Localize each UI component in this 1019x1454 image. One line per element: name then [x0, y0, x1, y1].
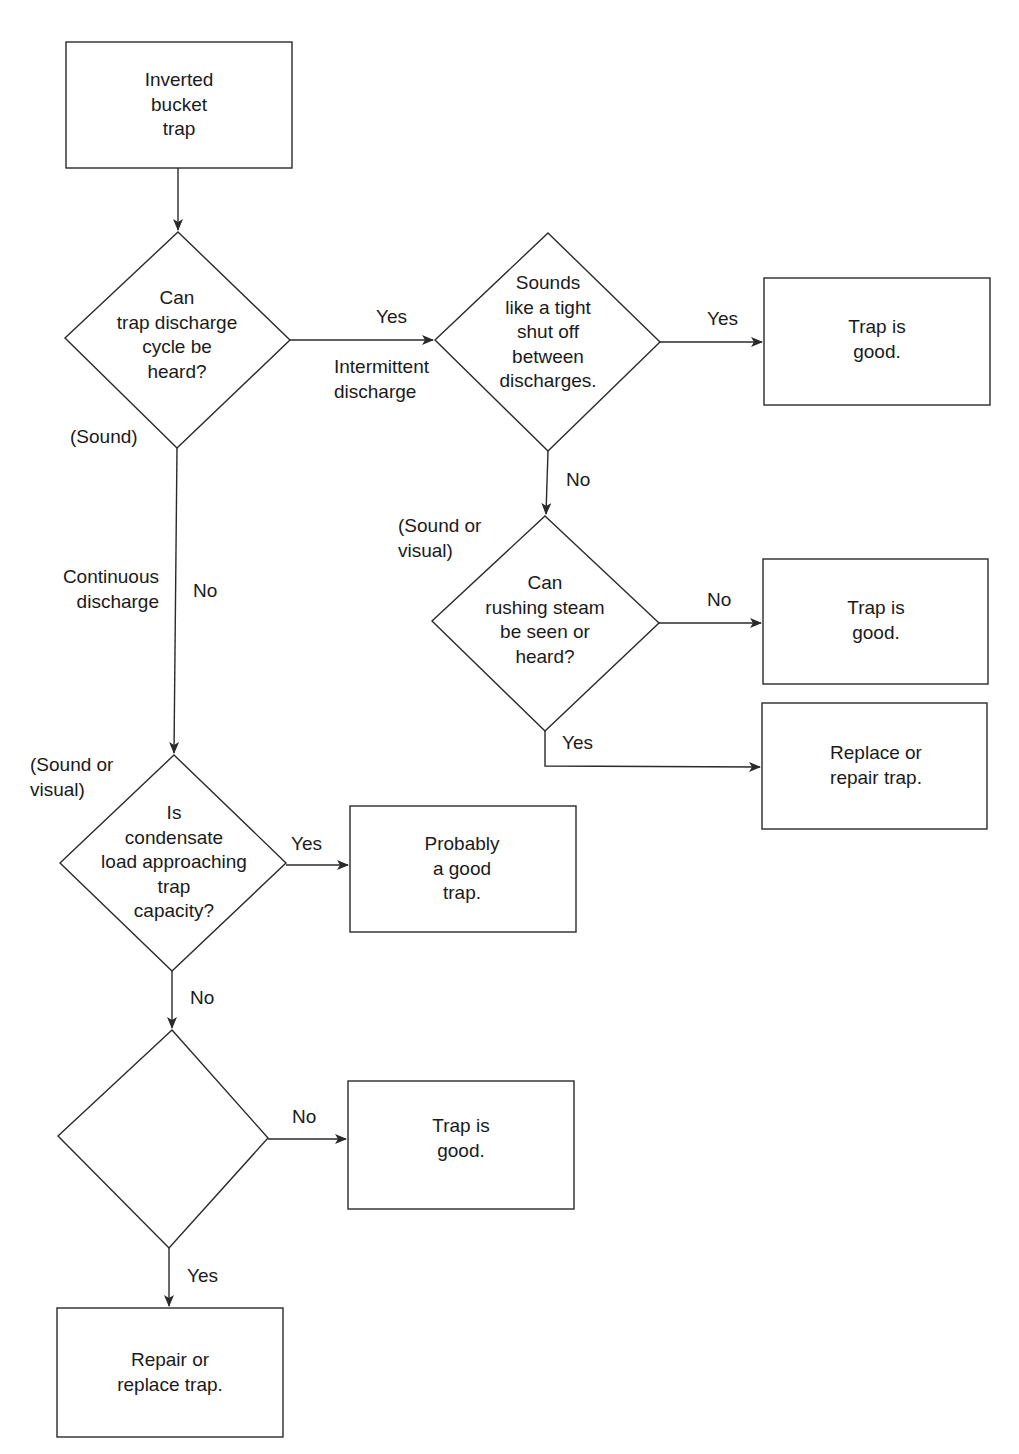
label-intermittent-discharge: Intermittent discharge	[334, 355, 429, 404]
label-yes-steam-1: Yes	[562, 731, 593, 756]
result-repair-replace-text: Repair or replace trap.	[117, 1348, 223, 1397]
label-no-cycle: No	[193, 579, 217, 604]
label-yes-intermittent: Yes	[376, 305, 407, 330]
label-sound-or-visual-1: (Sound or visual)	[398, 514, 481, 563]
label-sound-1: (Sound)	[70, 425, 138, 450]
result-good-1-text: Trap is good.	[848, 315, 905, 364]
arrow-q1-no	[174, 448, 177, 753]
result-probably-good-text: Probably a good trap.	[425, 832, 500, 906]
label-no-steam-2: No	[292, 1105, 316, 1130]
label-continuous-discharge: Continuous discharge	[40, 565, 159, 614]
label-yes-tight: Yes	[707, 307, 738, 332]
label-no-steam-1: No	[707, 588, 731, 613]
arrow-q2-no	[546, 451, 548, 514]
decision-tight-shutoff-text: Sounds like a tight shut off between dis…	[499, 271, 596, 394]
label-no-condensate: No	[190, 986, 214, 1011]
label-sound-or-visual-2: (Sound or visual)	[30, 753, 113, 802]
result-good-2-text: Trap is good.	[847, 596, 904, 645]
decision-cycle-heard-text: Can trap discharge cycle be heard?	[117, 286, 237, 384]
result-good-3-text: Trap is good.	[432, 1114, 489, 1163]
result-replace-repair-text: Replace or repair trap.	[830, 741, 922, 790]
label-no-tight: No	[566, 468, 590, 493]
decision-steam-seen-heard-text: Can rushing steam be seen or heard?	[485, 571, 604, 669]
decision-condensate-load-text: Is condensate load approaching trap capa…	[101, 801, 247, 924]
label-yes-steam-2: Yes	[187, 1264, 218, 1289]
start-node-text: Inverted bucket trap	[145, 68, 214, 142]
label-yes-condensate: Yes	[291, 832, 322, 857]
decision-steam-heard-seen	[58, 1030, 268, 1248]
flowchart-canvas	[0, 0, 1019, 1454]
